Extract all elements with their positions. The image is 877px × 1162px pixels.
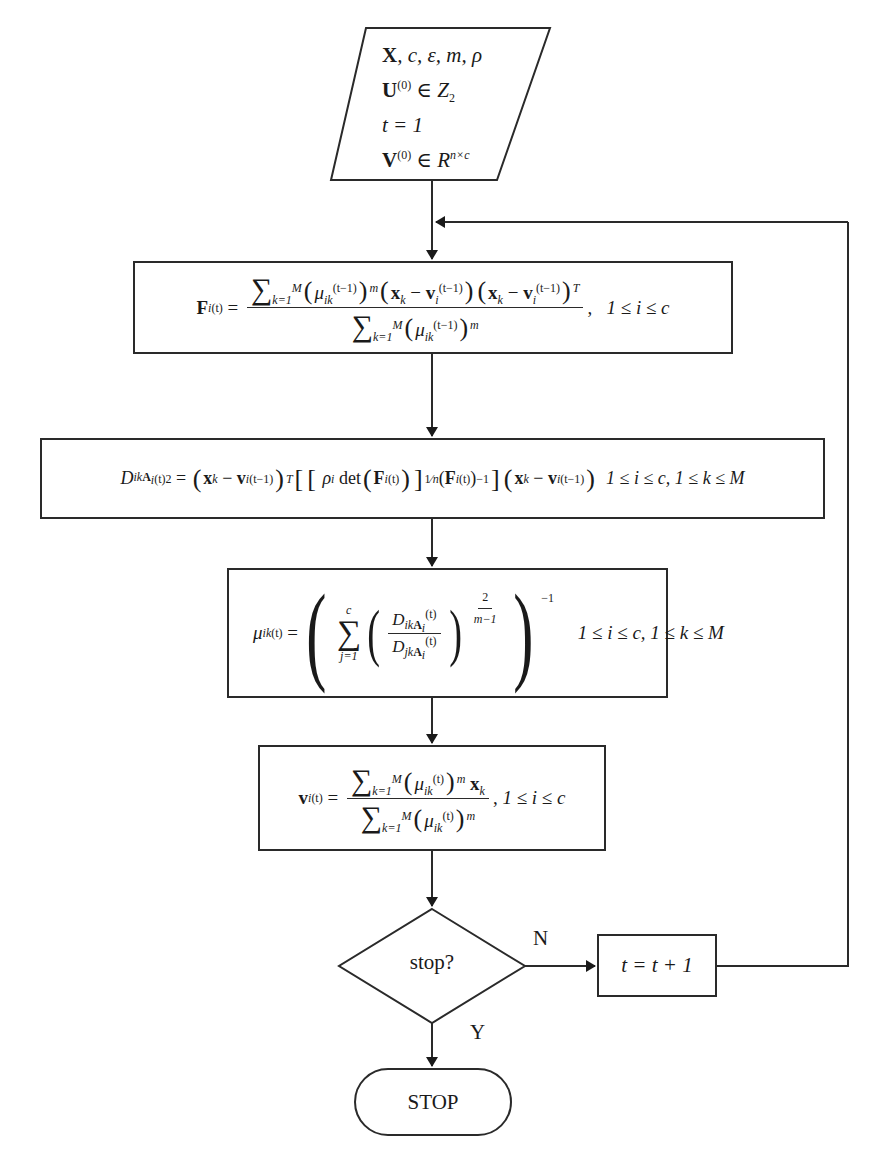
yes-branch-label: Y	[470, 1020, 485, 1045]
distance-formula: DikAi(t)2 = (xk − vi(t−1))T[[ ρi det(Fi(…	[120, 466, 744, 492]
center-update-box: vi(t) = ∑k=1M(μik(t))m xk ∑k=1M(μik(t))m…	[258, 745, 606, 851]
distance-update-box: DikAi(t)2 = (xk − vi(t−1))T[[ ρi det(Fi(…	[40, 438, 825, 519]
increment-box: t = t + 1	[597, 934, 717, 997]
covariance-update-box: Fi(t) = ∑k=1M(μik(t−1))m(xk − vi(t−1))(x…	[133, 261, 733, 354]
stop-label: STOP	[408, 1090, 459, 1115]
covariance-formula: Fi(t) = ∑k=1M(μik(t−1))m(xk − vi(t−1))(x…	[196, 274, 669, 341]
input-line-t: t = 1	[382, 108, 482, 143]
stop-terminal: STOP	[354, 1068, 512, 1136]
decision-label: stop?	[380, 950, 484, 975]
covariance-condition: 1 ≤ i ≤ c	[606, 297, 669, 319]
membership-condition: 1 ≤ i ≤ c, 1 ≤ k ≤ M	[578, 622, 724, 644]
membership-update-box: μik(t) = ( c∑j=1 ( DikAi(t) DjkAi(t) ) 2…	[227, 568, 668, 698]
input-line-v0: V(0) ∈ Rn×c	[382, 143, 482, 178]
input-line-params: X, c, ε, m, ρ	[382, 38, 482, 73]
membership-formula: μik(t) = ( c∑j=1 ( DikAi(t) DjkAi(t) ) 2…	[253, 584, 724, 683]
input-line-u0: U(0) ∈ Z2	[382, 73, 482, 108]
center-formula: vi(t) = ∑k=1M(μik(t))m xk ∑k=1M(μik(t))m…	[299, 765, 566, 832]
no-branch-label: N	[533, 926, 548, 951]
increment-label: t = t + 1	[621, 953, 693, 978]
distance-condition: 1 ≤ i ≤ c, 1 ≤ k ≤ M	[606, 468, 745, 489]
input-parameters: X, c, ε, m, ρ U(0) ∈ Z2 t = 1 V(0) ∈ Rn×…	[382, 38, 482, 178]
center-condition: 1 ≤ i ≤ c	[502, 787, 565, 809]
